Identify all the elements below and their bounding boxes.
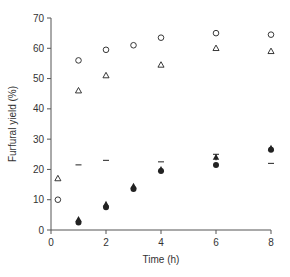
open-triangle-marker xyxy=(103,72,109,77)
y-tick-label: 30 xyxy=(33,134,45,145)
furfural-yield-chart: 01020304050607002468 Time (h) Furfural y… xyxy=(0,0,290,277)
filled-circle-marker xyxy=(268,147,274,153)
open-triangle-marker xyxy=(75,87,81,92)
filled-circle-marker xyxy=(131,186,137,192)
x-tick-label: 4 xyxy=(158,237,164,248)
y-tick-label: 50 xyxy=(33,73,45,84)
open-triangle-marker xyxy=(158,62,164,67)
open-circle-marker xyxy=(76,58,82,64)
x-tick-label: 6 xyxy=(213,237,219,248)
y-tick-label: 20 xyxy=(33,164,45,175)
open-circle-marker xyxy=(103,47,109,53)
open-circle-marker xyxy=(158,35,164,41)
filled-circle-marker xyxy=(213,162,219,168)
filled-circle-marker xyxy=(158,168,164,174)
x-axis-label: Time (h) xyxy=(143,254,180,265)
x-tick-label: 2 xyxy=(103,237,109,248)
axes: 01020304050607002468 xyxy=(33,13,274,249)
filled-circle-marker xyxy=(103,204,109,210)
open-triangle-marker xyxy=(55,175,61,180)
open-circle-marker xyxy=(55,197,61,203)
x-tick-label: 8 xyxy=(268,237,274,248)
x-tick-label: 0 xyxy=(48,237,54,248)
data-markers xyxy=(55,30,274,225)
y-tick-label: 70 xyxy=(33,13,45,24)
open-triangle-marker xyxy=(268,48,274,53)
open-circle-marker xyxy=(131,42,137,48)
y-axis-label: Furfural yield (%) xyxy=(7,86,18,162)
open-triangle-marker xyxy=(213,45,219,50)
y-tick-label: 0 xyxy=(38,225,44,236)
y-tick-label: 60 xyxy=(33,43,45,54)
open-circle-marker xyxy=(213,30,219,36)
filled-circle-marker xyxy=(76,219,82,225)
open-circle-marker xyxy=(268,32,274,38)
chart-svg: 01020304050607002468 Time (h) Furfural y… xyxy=(0,0,290,277)
y-tick-label: 40 xyxy=(33,103,45,114)
y-tick-label: 10 xyxy=(33,194,45,205)
